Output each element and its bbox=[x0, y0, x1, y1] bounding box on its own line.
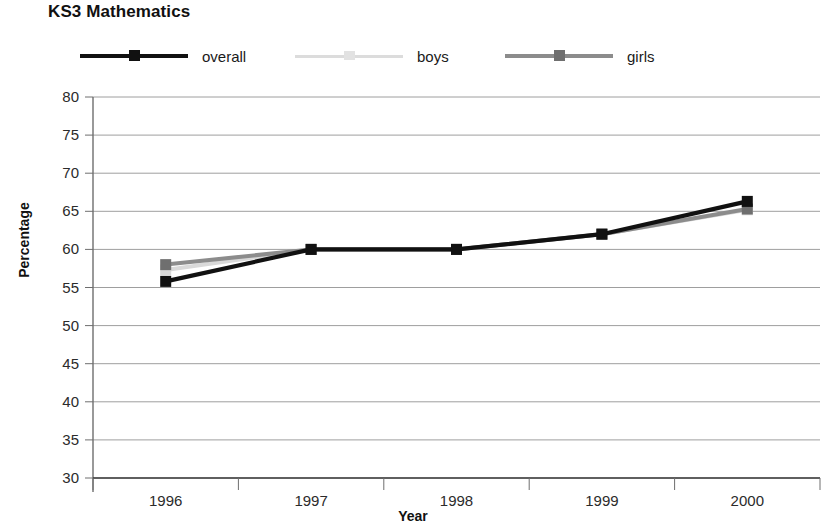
y-tick-label: 45 bbox=[62, 355, 79, 372]
series-line-girls bbox=[166, 209, 748, 265]
legend-marker-boys bbox=[344, 51, 355, 60]
legend-swatch-boys bbox=[295, 49, 403, 63]
data-point-overall bbox=[160, 276, 171, 287]
legend-entry-overall: overall bbox=[80, 44, 246, 68]
data-point-overall bbox=[742, 196, 753, 207]
legend-marker-overall bbox=[129, 50, 140, 61]
series-overall bbox=[160, 196, 753, 287]
legend-label-girls: girls bbox=[627, 48, 655, 65]
y-tick-label: 40 bbox=[62, 393, 79, 410]
legend-label-boys: boys bbox=[417, 48, 449, 65]
data-point-overall bbox=[306, 244, 317, 255]
y-tick-label: 55 bbox=[62, 279, 79, 296]
series-line-overall bbox=[166, 201, 748, 281]
data-point-girls bbox=[160, 259, 171, 270]
legend-swatch-overall bbox=[80, 49, 188, 63]
x-tick-label: 2000 bbox=[731, 492, 764, 509]
y-tick-label: 80 bbox=[62, 88, 79, 105]
y-tick-label: 30 bbox=[62, 469, 79, 486]
legend-entry-girls: girls bbox=[505, 44, 655, 68]
y-tick-label: 50 bbox=[62, 317, 79, 334]
x-tick-label: 1998 bbox=[440, 492, 473, 509]
legend-marker-girls bbox=[554, 50, 565, 61]
legend-swatch-girls bbox=[505, 49, 613, 63]
data-point-overall bbox=[451, 244, 462, 255]
y-tick-label: 35 bbox=[62, 431, 79, 448]
x-axis-title: Year bbox=[0, 508, 826, 524]
chart-title: KS3 Mathematics bbox=[48, 2, 190, 22]
chart-container: KS3 Mathematics overall boys girls Perce… bbox=[0, 0, 826, 531]
y-axis-title: Percentage bbox=[16, 170, 32, 310]
x-tick-label: 1996 bbox=[149, 492, 182, 509]
y-tick-label: 70 bbox=[62, 164, 79, 181]
y-tick-label: 60 bbox=[62, 240, 79, 257]
chart-plot-area: 3035404550556065707580199619971998199920… bbox=[0, 0, 826, 531]
legend-entry-boys: boys bbox=[295, 44, 449, 68]
y-tick-label: 75 bbox=[62, 126, 79, 143]
y-tick-label: 65 bbox=[62, 202, 79, 219]
chart-legend: overall boys girls bbox=[80, 44, 760, 70]
x-tick-label: 1997 bbox=[294, 492, 327, 509]
data-point-overall bbox=[596, 229, 607, 240]
legend-label-overall: overall bbox=[202, 48, 246, 65]
x-tick-label: 1999 bbox=[585, 492, 618, 509]
